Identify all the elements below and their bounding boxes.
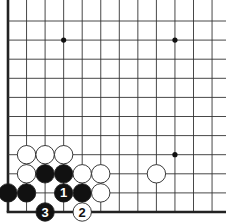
black-stone (36, 165, 54, 183)
white-stone (147, 165, 165, 183)
black-stone (54, 165, 72, 183)
white-stone: 2 (73, 203, 91, 221)
black-stone (73, 184, 91, 202)
white-stone (17, 165, 35, 183)
black-stone (17, 184, 35, 202)
white-stone (92, 165, 110, 183)
star-point-icon (172, 38, 177, 43)
star-point-icon (61, 38, 66, 43)
move-number-label: 1 (60, 185, 67, 200)
black-stone (0, 184, 17, 202)
stones: 132 (0, 146, 166, 222)
star-point-icon (172, 152, 177, 157)
white-stone (92, 184, 110, 202)
white-stone (73, 165, 91, 183)
move-number-label: 3 (41, 205, 48, 220)
white-stone (36, 146, 54, 164)
black-stone: 1 (54, 184, 72, 202)
go-board: 132 (0, 0, 226, 223)
move-number-label: 2 (79, 205, 86, 220)
white-stone (17, 146, 35, 164)
white-stone (54, 146, 72, 164)
black-stone: 3 (36, 203, 54, 221)
